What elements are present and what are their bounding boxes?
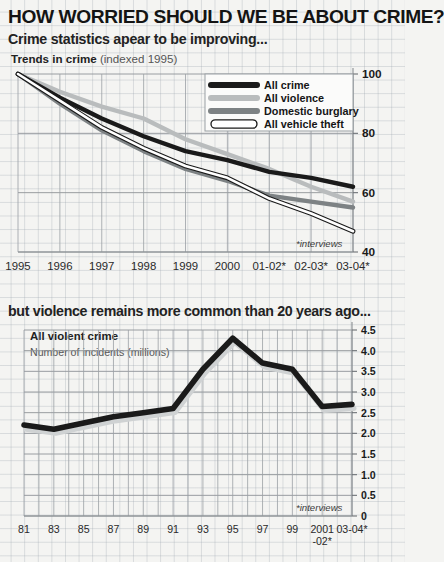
chart2-x-tick-label: 85 <box>78 523 90 535</box>
chart2-x-tick-label: 2001 <box>310 523 334 535</box>
chart2-y-tick-label: 1.5 <box>361 448 376 460</box>
chart2-x-tick-label: 93 <box>197 523 209 535</box>
chart2-x-tick-label: 99 <box>286 523 298 535</box>
chart2-x-tick-label: 91 <box>167 523 179 535</box>
chart2-x-tick-label: 95 <box>227 523 239 535</box>
chart2-y-tick-label: 0 <box>361 510 367 522</box>
chart2-y-tick-label: 3.5 <box>361 365 376 377</box>
chart2-y-tick-label: 2.0 <box>361 427 376 439</box>
chart2-y-tick-label: 4.5 <box>361 324 376 336</box>
chart2-x-tick-label: 97 <box>257 523 269 535</box>
chart2-x-tick-label: 83 <box>48 523 60 535</box>
chart2-y-tick-label: 2.5 <box>361 407 376 419</box>
chart2-y-tick-label: 0.5 <box>361 489 376 501</box>
chart2-x-tick-label-line2: -02* <box>312 535 331 547</box>
chart2-interviews-note: *interviews <box>296 502 343 513</box>
chart2-y-tick-label: 1.0 <box>361 469 376 481</box>
chart2-x-tick-label: 87 <box>108 523 120 535</box>
chart2-y-tick-label: 3.0 <box>361 386 376 398</box>
chart2-x-tick-label: 81 <box>18 523 30 535</box>
chart2-x-tick-label: 89 <box>137 523 149 535</box>
chart2-y-tick-label: 4.0 <box>361 345 376 357</box>
chart2-x-tick-label: 03-04* <box>336 523 367 535</box>
